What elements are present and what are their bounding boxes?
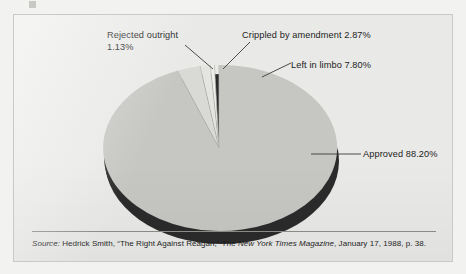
callout-label-left-in-limbo: Left in limbo 7.80% [291,59,371,71]
callout-rejected-value: 1.13% [107,41,178,53]
source-publication: The New York Times Magazine [222,239,334,248]
leader-line-rejected [185,45,213,69]
source-citation: Source: Hedrick Smith, “The Right Agains… [32,239,426,248]
callout-rejected-text: Rejected outright [107,29,178,41]
pie-slice-approved [103,65,337,231]
leader-line-limbo [262,63,291,77]
source-author: Hedrick Smith, [60,239,117,248]
figure-frame: Rejected outright 1.13% Crippled by amen… [13,14,453,262]
source-issue-details: , January 17, 1988, p. 38. [334,239,426,248]
callout-label-crippled: Crippled by amendment 2.87% [242,29,371,41]
callout-label-rejected: Rejected outright 1.13% [107,29,178,53]
scan-artifact [29,1,36,8]
callout-label-approved: Approved 88.20% [363,148,438,160]
source-divider-rule [32,231,436,232]
source-article-title: “The Right Against Reagan,” [117,239,222,248]
source-prefix: Source: [32,239,60,248]
leader-line-crippled [223,42,250,69]
pie-chart-plot [14,15,453,262]
